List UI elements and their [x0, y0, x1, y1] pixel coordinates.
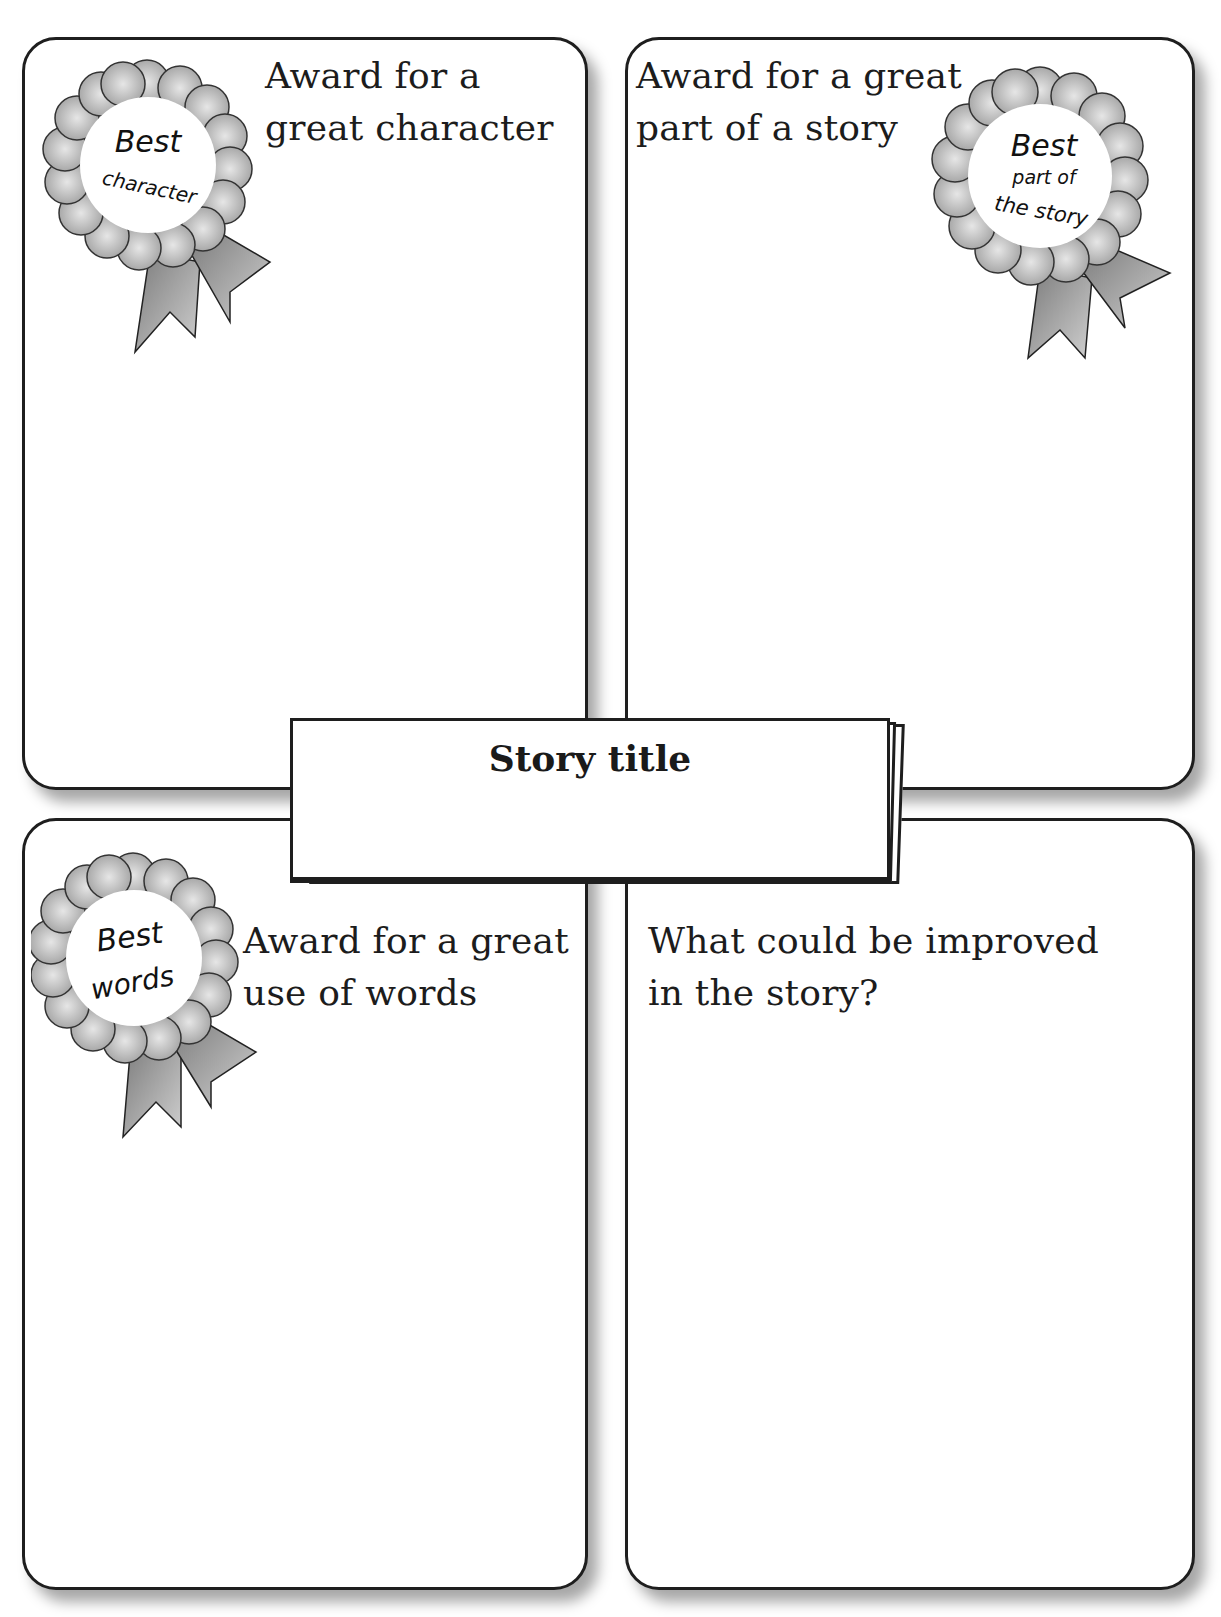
label-line-1: Award for a — [265, 50, 554, 102]
card-best-words: Award for a great use of words Best word… — [22, 818, 588, 1590]
card-label: What could be improved in the story? — [648, 915, 1099, 1019]
story-title-field[interactable]: Story title — [290, 718, 890, 880]
card-improvements: What could be improved in the story? — [625, 818, 1195, 1590]
card-best-character: Award for a great character Best charact… — [22, 37, 588, 790]
svg-text:part of: part of — [1011, 166, 1079, 188]
story-title-heading: Story title — [293, 733, 887, 783]
story-title-banner: Story title — [290, 718, 930, 888]
label-line-2: part of a story — [636, 102, 962, 154]
label-line-2: use of words — [243, 967, 569, 1019]
svg-text:Best: Best — [115, 124, 183, 159]
label-line-2: great character — [265, 102, 554, 154]
svg-text:Best: Best — [1011, 128, 1079, 163]
rosette-best-character-icon: Best character — [35, 52, 275, 362]
card-label: Award for a great character — [265, 50, 554, 154]
card-label: Award for a great use of words — [243, 915, 569, 1019]
label-line-2: in the story? — [648, 967, 1099, 1019]
card-label: Award for a great part of a story — [636, 50, 962, 154]
label-line-1: Award for a great — [243, 915, 569, 967]
label-line-1: What could be improved — [648, 915, 1099, 967]
rosette-best-part-icon: Best part of the story — [920, 58, 1180, 378]
card-best-part: Award for a great part of a story Best p… — [625, 37, 1195, 790]
label-line-1: Award for a great — [636, 50, 962, 102]
rosette-best-words-icon: Best words — [31, 847, 271, 1147]
